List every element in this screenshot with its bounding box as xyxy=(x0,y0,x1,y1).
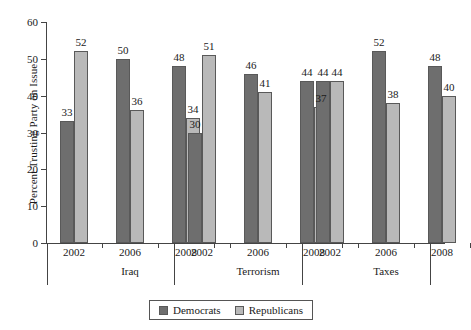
y-tick-label: 40 xyxy=(27,90,38,102)
value-label-democrats: 50 xyxy=(108,44,138,56)
value-label-democrats: 52 xyxy=(364,36,394,48)
legend-swatch-democrats-icon xyxy=(159,306,168,315)
x-label-year-terrorism-2006: 2006 xyxy=(238,246,278,258)
value-label-democrats: 48 xyxy=(164,51,194,63)
legend: Democrats Republicans xyxy=(149,300,313,320)
group-separator-line xyxy=(174,243,175,285)
x-label-year-taxes-2006: 2006 xyxy=(366,246,406,258)
x-label-year-terrorism-2002: 2002 xyxy=(182,246,222,258)
x-group-label-iraq: Iraq xyxy=(70,265,190,277)
value-label-democrats: 33 xyxy=(52,106,82,118)
value-label-democrats: 30 xyxy=(180,118,210,130)
value-label-republicans: 51 xyxy=(194,40,224,52)
x-label-year-taxes-2008: 2008 xyxy=(422,246,462,258)
y-tick-mark xyxy=(41,243,46,244)
legend-label-republicans: Republicans xyxy=(249,304,303,316)
value-label-republicans: 37 xyxy=(306,92,336,104)
legend-swatch-republicans-icon xyxy=(235,306,244,315)
y-tick-label: 50 xyxy=(27,53,38,65)
x-label-year-iraq-2002: 2002 xyxy=(54,246,94,258)
x-label-year-iraq-2006: 2006 xyxy=(110,246,150,258)
value-label-republicans: 36 xyxy=(122,95,152,107)
axis-end-line xyxy=(430,243,431,285)
value-label-republicans: 34 xyxy=(178,103,208,115)
x-axis-line xyxy=(46,243,445,244)
x-axis-labels: 200220062008Iraq200220062008Terrorism200… xyxy=(46,246,445,286)
value-label-democrats: 46 xyxy=(236,59,266,71)
legend-item-republicans: Republicans xyxy=(235,304,303,316)
x-label-year-taxes-2002: 2002 xyxy=(310,246,350,258)
value-label-democrats: 48 xyxy=(420,51,450,63)
value-label-republicans: 38 xyxy=(378,88,408,100)
x-group-label-taxes: Taxes xyxy=(326,265,446,277)
value-label-republicans: 41 xyxy=(250,77,280,89)
legend-item-democrats: Democrats xyxy=(159,304,221,316)
y-tick-label: 10 xyxy=(27,200,38,212)
plot-area: 0102030405060 33525036483430514641443744… xyxy=(46,22,445,243)
value-label-republicans: 52 xyxy=(66,36,96,48)
axis-end-line xyxy=(47,243,48,285)
y-tick-label: 30 xyxy=(27,127,38,139)
value-label-republicans: 44 xyxy=(322,66,352,78)
x-group-label-terrorism: Terrorism xyxy=(198,265,318,277)
legend-label-democrats: Democrats xyxy=(173,304,221,316)
group-separator-line xyxy=(302,243,303,285)
value-label-republicans: 40 xyxy=(434,81,464,93)
y-tick-label: 60 xyxy=(27,16,38,28)
bar-value-labels: 335250364834305146414437444452384840 xyxy=(46,22,445,243)
y-tick-label: 20 xyxy=(27,163,38,175)
y-tick-label: 0 xyxy=(33,237,39,249)
